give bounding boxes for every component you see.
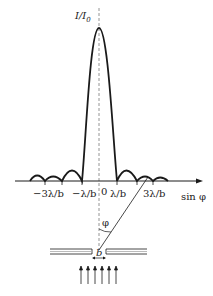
angle-label: φ: [102, 217, 109, 228]
tick-label-minus-3: −3λ/b: [33, 188, 64, 199]
tick-label-plus-1: λ/b: [110, 188, 126, 199]
diffraction-diagram: I/I0 sin φ 0 −3λ/b −λ/b λ/b 3λ/b φ b: [0, 0, 213, 296]
origin-label: 0: [101, 186, 107, 197]
y-axis-label: I/I0: [74, 10, 91, 24]
tick-label-minus-1: −λ/b: [72, 188, 97, 199]
slit-label: b: [96, 247, 102, 258]
x-axis-arrow-icon: [196, 179, 203, 184]
x-axis-label: sin φ: [181, 191, 206, 202]
tick-label-plus-3: 3λ/b: [143, 188, 165, 199]
incident-light-arrows: [80, 266, 118, 284]
angle-arc: [99, 229, 111, 232]
